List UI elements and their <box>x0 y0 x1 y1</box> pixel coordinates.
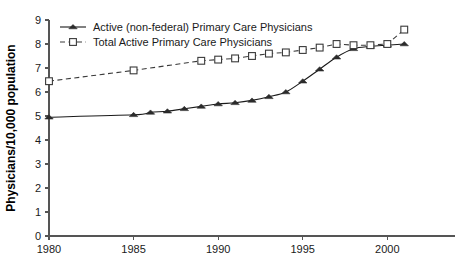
y-tick-label: 3 <box>35 158 41 170</box>
data-point-marker <box>316 44 323 51</box>
y-axis: 0123456789 <box>35 14 49 242</box>
series-2 <box>46 26 408 84</box>
y-tick-label: 8 <box>35 38 41 50</box>
data-point-marker <box>46 78 53 85</box>
data-point-marker <box>299 47 306 54</box>
data-point-marker <box>215 56 222 63</box>
x-tick-label: 2000 <box>375 243 399 255</box>
y-tick-label: 2 <box>35 182 41 194</box>
y-tick-label: 4 <box>35 134 41 146</box>
y-tick-label: 1 <box>35 206 41 218</box>
legend-item-1: Active (non-federal) Primary Care Physic… <box>60 21 313 33</box>
data-point-marker <box>333 41 340 48</box>
data-point-marker <box>198 57 205 64</box>
chart-canvas: 0123456789 19801985199019952000 Physicia… <box>0 0 461 266</box>
legend-marker-square-icon <box>70 39 77 46</box>
data-point-marker <box>232 55 239 62</box>
data-point-marker <box>350 42 357 49</box>
y-tick-label: 6 <box>35 86 41 98</box>
x-axis: 19801985199019952000 <box>37 236 455 255</box>
data-point-marker <box>384 41 391 48</box>
data-point-marker <box>266 50 273 57</box>
data-point-marker <box>249 53 256 60</box>
y-tick-label: 5 <box>35 110 41 122</box>
data-point-marker <box>401 26 408 33</box>
chart-legend: Active (non-federal) Primary Care Physic… <box>60 21 313 48</box>
data-point-marker <box>282 49 289 56</box>
legend-item-label: Active (non-federal) Primary Care Physic… <box>93 21 313 33</box>
series-1 <box>45 42 409 119</box>
data-point-marker <box>367 42 374 49</box>
x-tick-label: 1980 <box>37 243 61 255</box>
chart-figure: 0123456789 19801985199019952000 Physicia… <box>0 0 461 266</box>
y-tick-label: 7 <box>35 62 41 74</box>
y-tick-label: 0 <box>35 230 41 242</box>
series-line <box>49 44 404 117</box>
y-tick-label: 9 <box>35 14 41 26</box>
y-axis-title: Physicians/10,000 population <box>4 44 18 211</box>
legend-item-label: Total Active Primary Care Physicians <box>93 36 273 48</box>
data-point-marker <box>130 67 137 74</box>
x-tick-label: 1985 <box>121 243 145 255</box>
x-tick-label: 1995 <box>291 243 315 255</box>
x-tick-label: 1990 <box>206 243 230 255</box>
legend-item-2: Total Active Primary Care Physicians <box>60 36 273 48</box>
y-axis-title-label: Physicians/10,000 population <box>4 44 18 211</box>
